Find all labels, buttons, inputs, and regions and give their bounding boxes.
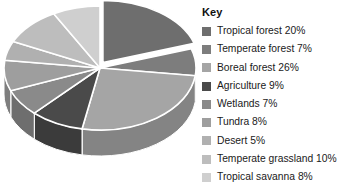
pie-chart-figure: Key Tropical forest 20%Temperate forest … (0, 0, 340, 189)
legend-item-label: Boreal forest 26% (217, 63, 299, 73)
legend: Key Tropical forest 20%Temperate forest … (198, 6, 340, 186)
legend-item[interactable]: Wetlands 7% (198, 95, 340, 113)
legend-item-label: Tundra 8% (217, 117, 267, 127)
legend-item[interactable]: Agriculture 9% (198, 77, 340, 95)
legend-item-label: Desert 5% (217, 136, 265, 146)
legend-swatch-icon (202, 82, 211, 91)
legend-swatch-icon (202, 100, 211, 109)
legend-swatch-icon (202, 27, 211, 36)
legend-item[interactable]: Boreal forest 26% (198, 59, 340, 77)
legend-item-label: Wetlands 7% (217, 99, 277, 109)
legend-item-label: Temperate grassland 10% (217, 154, 337, 164)
legend-item[interactable]: Temperate grassland 10% (198, 150, 340, 168)
legend-swatch-icon (202, 118, 211, 127)
legend-title: Key (202, 6, 340, 18)
pie-top-faces (4, 1, 196, 130)
legend-item-label: Temperate forest 7% (217, 44, 312, 54)
pie-svg (0, 0, 196, 189)
legend-item[interactable]: Tundra 8% (198, 113, 340, 131)
legend-item-label: Agriculture 9% (217, 81, 284, 91)
legend-rows: Tropical forest 20%Temperate forest 7%Bo… (198, 22, 340, 187)
legend-item-label: Tropical forest 20% (217, 26, 305, 36)
legend-swatch-icon (202, 63, 211, 72)
legend-item-label: Tropical savanna 8% (217, 172, 313, 182)
legend-item[interactable]: Tropical savanna 8% (198, 168, 340, 186)
legend-swatch-icon (202, 155, 211, 164)
legend-swatch-icon (202, 173, 211, 182)
pie-graphic (0, 0, 196, 189)
legend-swatch-icon (202, 45, 211, 54)
legend-item[interactable]: Tropical forest 20% (198, 22, 340, 40)
legend-item[interactable]: Temperate forest 7% (198, 40, 340, 58)
legend-swatch-icon (202, 136, 211, 145)
legend-item[interactable]: Desert 5% (198, 132, 340, 150)
